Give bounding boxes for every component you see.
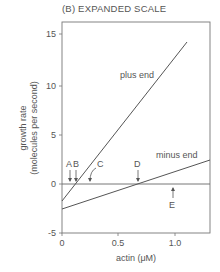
y-tick-10: 10 (46, 81, 56, 91)
x-tick-0: 0 (59, 238, 64, 248)
y-tick-neg5: -5 (48, 228, 56, 238)
x-axis-label: actin (μM) (116, 253, 156, 263)
y-axis-sublabel: (molecules per second) (29, 81, 39, 175)
annotation-c: C (97, 159, 104, 169)
chart-plot: 15 10 5 0 -5 0 0.5 1.0 plus end minus en… (0, 0, 220, 272)
annotation-a: A (66, 159, 72, 169)
plus-end-label: plus end (120, 70, 154, 80)
annotation-e: E (169, 200, 175, 210)
y-tick-5: 5 (51, 130, 56, 140)
annotation-d: D (134, 159, 141, 169)
x-tick-1.0: 1.0 (169, 238, 182, 248)
y-axis-label: growth rate (18, 105, 28, 150)
y-tick-15: 15 (46, 29, 56, 39)
y-tick-0: 0 (51, 179, 56, 189)
plus-end-line (62, 42, 187, 201)
minus-end-label: minus end (156, 150, 198, 160)
y-axis: 15 10 5 0 -5 (46, 29, 62, 238)
annotation-b: B (73, 159, 79, 169)
x-axis: 0 0.5 1.0 (59, 233, 181, 248)
x-tick-0.5: 0.5 (112, 238, 125, 248)
